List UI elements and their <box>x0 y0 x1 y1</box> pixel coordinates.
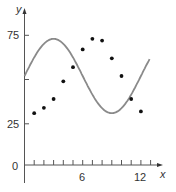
x-ticks <box>34 160 150 165</box>
data-point <box>129 97 133 101</box>
x-axis-label: x <box>159 168 166 180</box>
data-point <box>110 56 114 60</box>
y-axis-label: y <box>15 3 23 15</box>
data-point <box>71 65 75 69</box>
data-point <box>81 48 85 52</box>
data-point <box>42 106 46 110</box>
data-point <box>120 74 124 78</box>
chart: y 75 25 0 6 12 x <box>0 0 176 192</box>
data-point <box>91 37 95 41</box>
data-point <box>100 39 104 43</box>
data-point <box>61 79 65 83</box>
x-tick-label-6: 6 <box>79 171 85 183</box>
x-axis <box>25 163 164 167</box>
y-axis-arrow-icon <box>23 8 27 14</box>
y-tick-label-75: 75 <box>7 29 19 41</box>
data-point <box>139 110 143 114</box>
y-tick-label-25: 25 <box>7 118 19 130</box>
model-curve <box>25 39 150 113</box>
y-tick-label-0: 0 <box>12 160 18 172</box>
y-axis <box>23 8 30 183</box>
data-point <box>52 97 56 101</box>
x-tick-label-12: 12 <box>134 171 146 183</box>
x-axis-arrow-icon <box>157 163 163 167</box>
data-point <box>32 111 36 115</box>
